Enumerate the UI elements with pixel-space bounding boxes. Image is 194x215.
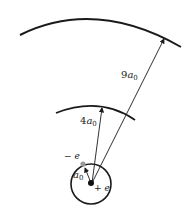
label-9a0: 9a0 (121, 70, 138, 82)
orbit-9a0-arc (20, 19, 181, 47)
bohr-orbit-diagram: 9a0 4a0 a0 − e + e (0, 0, 194, 215)
sub-0: 0 (79, 174, 83, 182)
label-4a0: 4a0 (80, 116, 97, 128)
label-a0: a0 (73, 170, 83, 182)
electron-charge-text: − e (64, 151, 80, 161)
sub-0: 0 (92, 120, 96, 128)
nucleus-charge-text: + e (94, 183, 110, 193)
label-electron-charge: − e (64, 152, 80, 161)
electron-dot (80, 161, 85, 166)
label-nucleus-charge: + e (94, 184, 110, 193)
sub-0: 0 (133, 74, 137, 82)
radius-arrow-9a0 (92, 39, 164, 183)
